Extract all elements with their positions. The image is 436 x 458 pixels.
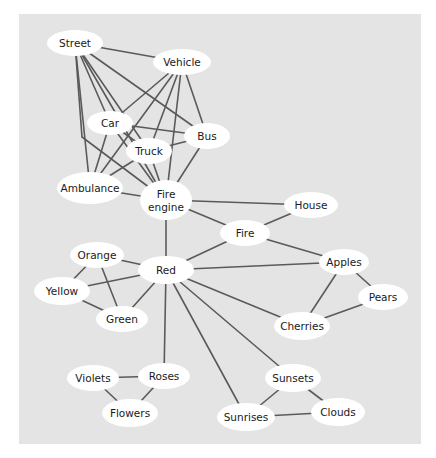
node-street: Street (47, 30, 103, 56)
node-label: Red (156, 264, 176, 276)
node-apples: Apples (319, 249, 369, 275)
node-label: Cherries (280, 320, 324, 332)
node-sunrises: Sunrises (217, 403, 275, 431)
node-label: Sunrises (224, 411, 269, 423)
node-car: Car (87, 111, 133, 135)
node-label: Flowers (110, 407, 150, 419)
node-yellow: Yellow (34, 277, 90, 305)
node-label: Green (106, 313, 138, 325)
node-label: Pears (369, 291, 398, 303)
node-cherries: Cherries (274, 312, 330, 340)
semantic-network-diagram: StreetVehicleCarBusTruckAmbulanceFireeng… (0, 0, 436, 458)
node-label: Fire (157, 188, 176, 200)
node-pears: Pears (358, 284, 408, 310)
node-label: Sunsets (272, 372, 314, 384)
node-fire: Fire (220, 220, 270, 246)
node-label: Clouds (320, 406, 355, 418)
node-label: Street (59, 37, 91, 49)
node-truck: Truck (126, 138, 172, 164)
node-label: Car (101, 117, 120, 129)
node-green: Green (96, 306, 148, 332)
node-house: House (284, 192, 338, 218)
node-flowers: Flowers (102, 399, 158, 427)
node-ambulance: Ambulance (57, 172, 123, 204)
node-label: Bus (197, 130, 216, 142)
node-roses: Roses (138, 363, 190, 389)
node-sunsets: Sunsets (265, 364, 321, 392)
node-label: Roses (149, 370, 180, 382)
node-label: engine (148, 201, 184, 213)
node-violets: Violets (67, 365, 119, 391)
node-clouds: Clouds (311, 398, 365, 426)
node-label: House (295, 199, 328, 211)
node-bus: Bus (184, 123, 230, 149)
node-vehicle: Vehicle (153, 49, 211, 75)
node-label: Ambulance (61, 182, 120, 194)
node-orange: Orange (70, 242, 124, 268)
node-label: Violets (75, 372, 110, 384)
node-fire-engine: Fireengine (140, 180, 192, 220)
node-red: Red (138, 256, 194, 284)
node-label: Fire (236, 227, 255, 239)
node-label: Apples (326, 256, 361, 268)
node-label: Yellow (45, 285, 79, 297)
node-label: Vehicle (163, 56, 201, 68)
node-label: Orange (78, 249, 117, 261)
node-label: Truck (134, 145, 164, 157)
